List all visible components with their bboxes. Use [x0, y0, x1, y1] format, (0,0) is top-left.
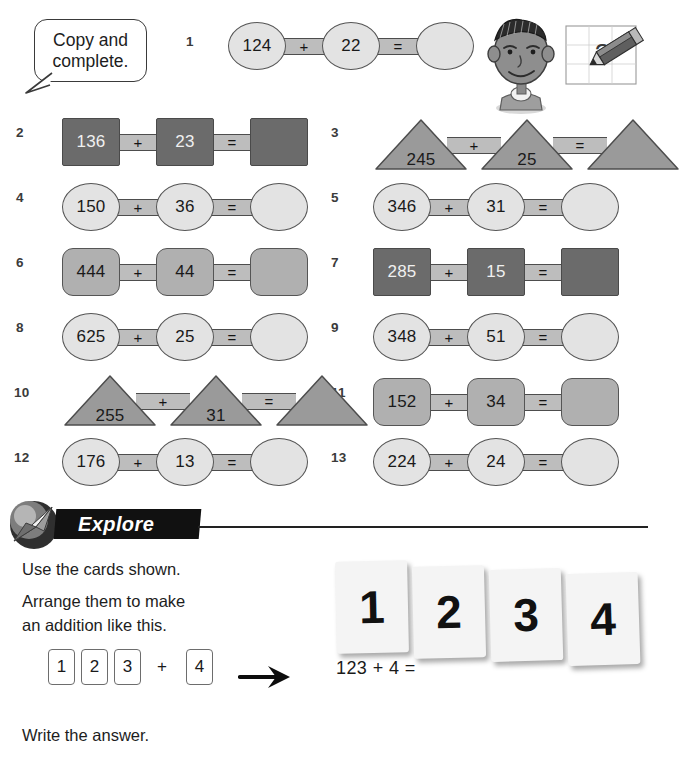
- speech-bubble-line1: Copy and: [53, 30, 128, 50]
- mini-card-1[interactable]: 1: [48, 649, 75, 685]
- addend-1-4: 150: [62, 183, 120, 231]
- boy-illustration: [482, 14, 560, 114]
- big-card-1[interactable]: 1: [335, 560, 409, 653]
- answer-box-1[interactable]: [416, 22, 474, 70]
- problem-chain-12: +=17613: [62, 438, 308, 486]
- addend-2-9: 51: [467, 313, 525, 361]
- compass-icon: [6, 497, 62, 551]
- addend-1-9: 348: [373, 313, 431, 361]
- answer-box-11[interactable]: [561, 378, 619, 426]
- problem-chain-3: +=24525: [373, 118, 681, 172]
- problem-number-3: 3: [331, 125, 339, 140]
- addend-1-10: 255: [62, 374, 158, 428]
- addend-2-6: 44: [156, 248, 214, 296]
- addend-2-label-3: 25: [479, 150, 575, 170]
- addend-1-7: 285: [373, 248, 431, 296]
- addend-1-13: 224: [373, 438, 431, 486]
- addend-1-label-10: 255: [62, 406, 158, 426]
- answer-box-3[interactable]: [585, 118, 681, 172]
- mini-card-4[interactable]: 4: [186, 649, 213, 685]
- problem-number-13: 13: [331, 450, 347, 465]
- answer-box-9[interactable]: [561, 313, 619, 361]
- problem-number-6: 6: [16, 255, 24, 270]
- addend-2-7: 15: [467, 248, 525, 296]
- problem-chain-10: +=25531: [62, 374, 370, 428]
- problem-chain-11: +=15234: [373, 378, 619, 426]
- big-card-2[interactable]: 2: [412, 565, 486, 659]
- addend-2-1: 22: [322, 22, 380, 70]
- problem-number-5: 5: [331, 190, 339, 205]
- mini-card-3[interactable]: 3: [114, 649, 141, 685]
- explore-equation: 123 + 4 =: [336, 658, 416, 679]
- answer-box-4[interactable]: [250, 183, 308, 231]
- speech-bubble-line2: complete.: [53, 51, 129, 71]
- addend-2-8: 25: [156, 313, 214, 361]
- addend-1-label-3: 245: [373, 150, 469, 170]
- addend-2-12: 13: [156, 438, 214, 486]
- addend-1-11: 152: [373, 378, 431, 426]
- answer-box-13[interactable]: [561, 438, 619, 486]
- addend-1-1: 124: [228, 22, 286, 70]
- addend-2-13: 24: [467, 438, 525, 486]
- addend-2-3: 25: [479, 118, 575, 172]
- addend-2-11: 34: [467, 378, 525, 426]
- mini-operator-plus: +: [157, 657, 167, 677]
- addend-2-5: 31: [467, 183, 525, 231]
- problem-chain-5: +=34631: [373, 183, 619, 231]
- problem-number-10: 10: [14, 385, 30, 400]
- problem-chain-1: +=12422: [228, 22, 474, 70]
- answer-box-7[interactable]: [561, 248, 619, 296]
- problem-number-12: 12: [14, 450, 30, 465]
- answer-box-10[interactable]: [274, 374, 370, 428]
- addend-1-6: 444: [62, 248, 120, 296]
- explore-banner-label: Explore: [78, 513, 198, 536]
- addend-1-12: 176: [62, 438, 120, 486]
- speech-bubble-tail: [24, 72, 54, 94]
- problem-chain-4: +=15036: [62, 183, 308, 231]
- problem-number-4: 4: [16, 190, 24, 205]
- addend-2-10: 31: [168, 374, 264, 428]
- addend-1-2: 136: [62, 118, 120, 166]
- problem-chain-7: +=28515: [373, 248, 619, 296]
- big-card-3[interactable]: 3: [489, 568, 564, 662]
- answer-box-5[interactable]: [561, 183, 619, 231]
- explore-line-4: Write the answer.: [22, 726, 149, 745]
- arrow-right-icon: [238, 663, 294, 691]
- addend-2-4: 36: [156, 183, 214, 231]
- answer-box-6[interactable]: [250, 248, 308, 296]
- big-card-4[interactable]: 4: [566, 572, 641, 666]
- problem-number-1: 1: [186, 34, 194, 49]
- addend-2-label-10: 31: [168, 406, 264, 426]
- problem-number-2: 2: [16, 125, 24, 140]
- explore-divider: [198, 526, 648, 528]
- problem-number-9: 9: [331, 320, 339, 335]
- problem-chain-9: +=34851: [373, 313, 619, 361]
- problem-chain-13: +=22424: [373, 438, 619, 486]
- explore-line-3: an addition like this.: [22, 616, 167, 635]
- problem-chain-6: +=44444: [62, 248, 308, 296]
- explore-line-2: Arrange them to make: [22, 592, 185, 611]
- answer-box-2[interactable]: [250, 118, 308, 166]
- answer-box-8[interactable]: [250, 313, 308, 361]
- explore-line-1: Use the cards shown.: [22, 560, 181, 579]
- problem-chain-8: +=62525: [62, 313, 308, 361]
- problem-number-8: 8: [16, 320, 24, 335]
- addend-2-2: 23: [156, 118, 214, 166]
- addend-1-8: 625: [62, 313, 120, 361]
- addend-1-5: 346: [373, 183, 431, 231]
- answer-box-12[interactable]: [250, 438, 308, 486]
- problem-chain-2: +=13623: [62, 118, 308, 166]
- explore-section-header: Explore: [0, 495, 661, 553]
- pencil-note-illustration: ?: [565, 18, 649, 92]
- mini-card-2[interactable]: 2: [81, 649, 108, 685]
- problem-number-7: 7: [331, 255, 339, 270]
- addend-1-3: 245: [373, 118, 469, 172]
